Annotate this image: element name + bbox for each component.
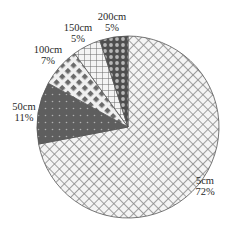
slice-label-150cm: 150cm5% bbox=[64, 22, 93, 44]
pie-chart: 5cm72%50cm11%100cm7%150cm5%200cm5% bbox=[0, 0, 233, 231]
slice-label-200cm: 200cm5% bbox=[98, 11, 127, 33]
slice-label-50cm: 50cm11% bbox=[12, 101, 35, 123]
slice-label-5cm: 5cm72% bbox=[195, 175, 215, 197]
slice-label-100cm: 100cm7% bbox=[34, 44, 63, 66]
